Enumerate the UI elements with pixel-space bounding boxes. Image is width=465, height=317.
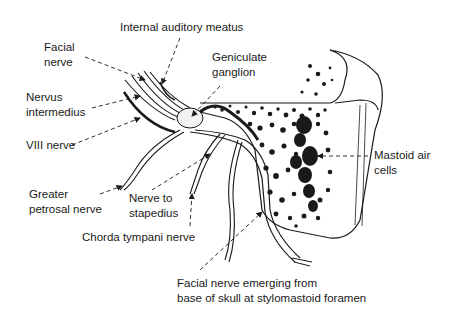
label-facial-nerve: Facial nerve [44,40,75,70]
leader-nerve-to-stapedius [152,154,210,190]
label-nervus-intermedius: Nervus intermedius [26,90,85,120]
leader-internal-auditory-meatus [162,38,180,84]
chorda-tympani-branch [225,140,238,260]
label-geniculate-ganglion: Geniculate ganglion [212,50,267,80]
leader-viii-nerve [72,118,140,145]
leader-facial-nerve [85,57,145,80]
label-greater-petrosal-nerve: Greater petrosal nerve [29,187,102,217]
label-nerve-to-stapedius: Nerve to stapedius [129,191,178,221]
label-viii-nerve: VIII nerve [26,138,75,153]
leader-chorda-tympani [190,194,192,226]
label-internal-auditory-meatus: Internal auditory meatus [120,20,243,35]
label-chorda-tympani-nerve: Chorda tympani nerve [82,230,195,245]
label-facial-nerve-emerging: Facial nerve emerging from base of skull… [177,276,366,306]
leader-stylomastoid [200,212,262,270]
facial-nerve-diagram: Internal auditory meatus Facial nerve Ge… [0,0,465,317]
mastoid-air-cells-large [290,116,318,212]
label-mastoid-air-cells: Mastoid air cells [374,148,430,178]
leader-greater-petrosal [100,186,122,194]
leader-nervus-intermedius [92,96,140,108]
greater-petrosal-branch [120,130,180,190]
